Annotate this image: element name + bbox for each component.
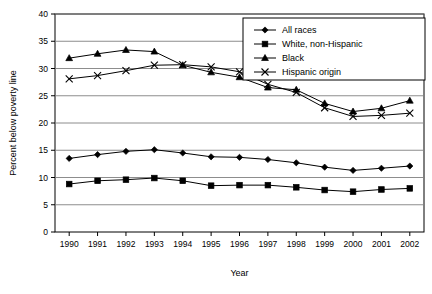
y-tick-label: 25 [39, 91, 49, 101]
data-point [350, 189, 356, 195]
legend-label: All races [282, 25, 317, 35]
legend-label: Hispanic origin [282, 67, 341, 77]
data-point [123, 177, 129, 183]
y-tick-label: 40 [39, 9, 49, 19]
data-point [152, 175, 158, 181]
legend-label: Black [282, 53, 305, 63]
x-tick-label: 1999 [315, 239, 334, 249]
x-tick-label: 2001 [372, 239, 391, 249]
x-tick-label: 2000 [344, 239, 363, 249]
y-tick-label: 30 [39, 64, 49, 74]
x-axis-title: Year [230, 268, 248, 278]
y-tick-label: 35 [39, 36, 49, 46]
x-tick-label: 1993 [145, 239, 164, 249]
x-tick-label: 1997 [258, 239, 277, 249]
x-tick-label: 1994 [173, 239, 192, 249]
y-tick-label: 5 [43, 200, 48, 210]
x-tick-label: 1992 [117, 239, 136, 249]
x-tick-label: 1991 [88, 239, 107, 249]
legend: All racesWhite, non-HispanicBlackHispani… [243, 18, 425, 80]
chart-canvas: 0510152025303540199019911992199319941995… [0, 0, 432, 294]
x-tick-label: 1996 [230, 239, 249, 249]
data-point [322, 187, 328, 193]
y-tick-label: 15 [39, 145, 49, 155]
x-tick-label: 1990 [60, 239, 79, 249]
data-point [265, 182, 271, 188]
y-tick-label: 10 [39, 173, 49, 183]
data-point [95, 178, 101, 184]
y-tick-label: 20 [39, 118, 49, 128]
x-tick-label: 1995 [202, 239, 221, 249]
poverty-line-chart: 0510152025303540199019911992199319941995… [0, 0, 432, 294]
data-point [379, 187, 385, 193]
x-tick-label: 2002 [400, 239, 419, 249]
x-tick-label: 1998 [287, 239, 306, 249]
data-point [237, 182, 243, 188]
y-axis-title: Percent below poverty line [8, 70, 18, 176]
y-tick-label: 0 [43, 227, 48, 237]
data-point [66, 181, 72, 187]
data-point [208, 183, 214, 189]
legend-label: White, non-Hispanic [282, 39, 363, 49]
data-point [407, 186, 413, 192]
data-point [293, 185, 299, 191]
data-point [180, 178, 186, 184]
legend-marker-square-icon [262, 41, 268, 47]
